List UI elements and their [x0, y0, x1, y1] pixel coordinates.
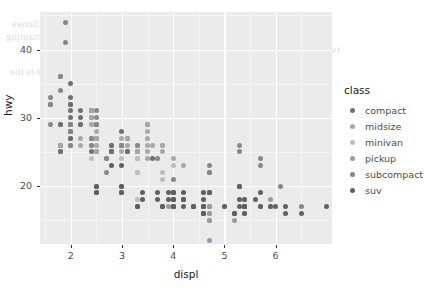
y-tick-label: 20 [6, 180, 32, 191]
data-point [166, 204, 171, 209]
data-point [258, 163, 263, 168]
data-point [94, 143, 99, 148]
data-point [155, 190, 160, 195]
data-point [135, 143, 140, 148]
data-point [201, 190, 206, 195]
data-point [201, 211, 206, 216]
data-point [119, 184, 124, 189]
data-point [237, 197, 242, 202]
data-point [48, 102, 53, 107]
data-point [135, 149, 140, 154]
gridline-major-y [40, 50, 332, 51]
data-point [166, 190, 171, 195]
data-point [155, 156, 160, 161]
data-point [324, 204, 329, 209]
legend-item-label: minivan [365, 137, 403, 148]
data-point [160, 143, 165, 148]
gridline-minor-x [301, 12, 302, 244]
data-point [89, 156, 94, 161]
legend-item-minivan: minivan [344, 134, 424, 150]
data-point [109, 143, 114, 148]
data-point [125, 136, 130, 141]
data-point [155, 197, 160, 202]
legend-items: compactmidsizeminivanpickupsubcompactsuv [344, 102, 424, 198]
gridline-minor-x [148, 12, 149, 244]
legend-key-icon [344, 166, 360, 182]
gridline-major-y [40, 186, 332, 187]
data-point [145, 156, 150, 161]
data-point [58, 149, 63, 154]
data-point [232, 211, 237, 216]
data-point [94, 149, 99, 154]
data-point [207, 218, 212, 223]
data-point [242, 204, 247, 209]
x-axis-title: displ [40, 268, 332, 280]
data-point [89, 122, 94, 127]
data-point [207, 170, 212, 175]
data-point [171, 156, 176, 161]
legend-item-compact: compact [344, 102, 424, 118]
data-point [78, 115, 83, 120]
x-tick-label: 2 [61, 250, 81, 261]
data-point [63, 40, 68, 45]
data-point [94, 122, 99, 127]
data-point [237, 204, 242, 209]
data-point [94, 108, 99, 113]
legend-item-label: suv [365, 185, 382, 196]
data-point [171, 177, 176, 182]
data-point [160, 149, 165, 154]
data-point [78, 143, 83, 148]
gridline-major-y [40, 118, 332, 119]
data-point [94, 136, 99, 141]
data-point [273, 204, 278, 209]
data-point [119, 156, 124, 161]
data-point [78, 136, 83, 141]
data-point [242, 211, 247, 216]
data-point [191, 204, 196, 209]
gridline-major-x [122, 12, 123, 244]
data-point [258, 156, 263, 161]
data-point [68, 122, 73, 127]
data-point [48, 122, 53, 127]
data-point [68, 136, 73, 141]
data-point [135, 170, 140, 175]
data-point [145, 129, 150, 134]
data-point [181, 197, 186, 202]
legend-key-icon [344, 150, 360, 166]
y-axis-title: hwy [2, 95, 14, 116]
data-point [171, 190, 176, 195]
data-point [145, 149, 150, 154]
data-point [68, 108, 73, 113]
data-point [201, 197, 206, 202]
data-point [207, 204, 212, 209]
legend-item-pickup: pickup [344, 150, 424, 166]
data-point [258, 190, 263, 195]
data-point [78, 122, 83, 127]
data-point [171, 163, 176, 168]
data-point [181, 204, 186, 209]
gridline-minor-x [45, 12, 46, 244]
data-point [48, 95, 53, 100]
legend-item-label: subcompact [365, 169, 423, 180]
data-point [160, 170, 165, 175]
data-point [63, 20, 68, 25]
data-point [119, 163, 124, 168]
data-point [78, 108, 83, 113]
x-tick-label: 6 [266, 250, 286, 261]
data-point [181, 190, 186, 195]
data-point [160, 204, 165, 209]
data-point [68, 102, 73, 107]
data-point [278, 184, 283, 189]
data-point [232, 218, 237, 223]
data-point [119, 136, 124, 141]
data-point [109, 149, 114, 154]
data-point [89, 136, 94, 141]
data-point [119, 190, 124, 195]
data-point [166, 197, 171, 202]
data-point [94, 184, 99, 189]
data-point [181, 163, 186, 168]
gridline-minor-y [40, 220, 332, 221]
gridline-major-x [71, 12, 72, 244]
x-tick-label: 4 [163, 250, 183, 261]
data-point [58, 122, 63, 127]
